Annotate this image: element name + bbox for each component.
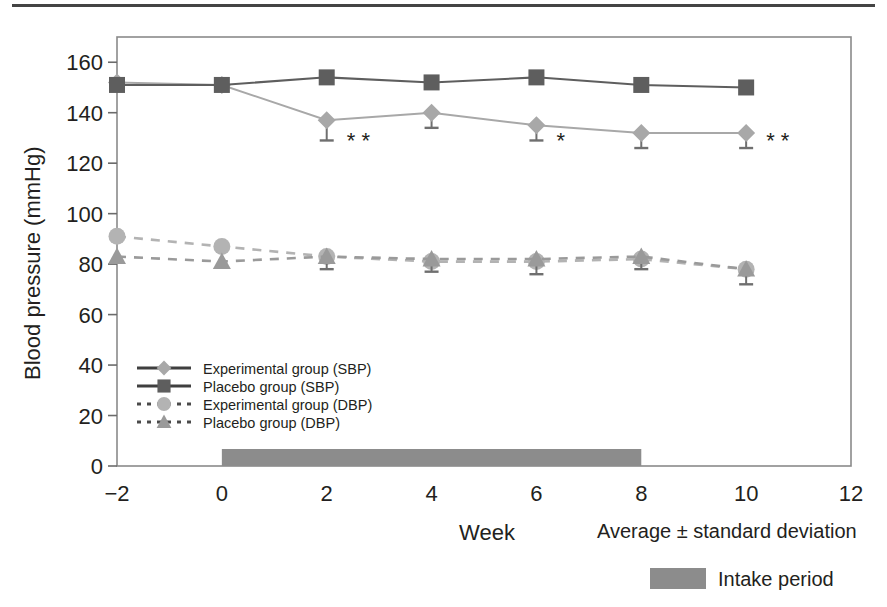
marker-diamond [318,111,336,129]
intake-period-note: Intake period [718,568,834,590]
marker-diamond [423,104,441,122]
marker-diamond [737,124,755,142]
marker-diamond [632,124,650,142]
legend-label: Experimental group (SBP) [203,361,371,377]
y-axis-title: Blood pressure (mmHg) [20,146,45,380]
average-sd-note: Average ± standard deviation [597,520,857,542]
legend-label: Placebo group (DBP) [203,415,340,431]
figure-canvas: 020406080100120140160 −2024681012 * *** … [0,0,887,607]
y-tick-label-140: 140 [66,101,103,126]
intake-period-bar [222,449,641,466]
y-tick-label-40: 40 [79,353,103,378]
x-axis-tick-labels: −2024681012 [104,481,863,506]
intake-period-swatch [650,568,706,589]
marker-circle [109,228,126,245]
legend-item-1: Experimental group (SBP) [137,361,371,377]
marker-square [319,69,335,85]
legend-label: Placebo group (SBP) [203,379,339,395]
y-axis-ticks [108,62,117,466]
marker-circle [213,238,230,255]
legend-item-4: Placebo group (DBP) [137,415,340,431]
y-tick-label-60: 60 [79,303,103,328]
x-tick-label-2: 2 [321,481,333,506]
y-tick-label-80: 80 [79,252,103,277]
x-tick-label-0: 0 [216,481,228,506]
significance-marker: * [556,128,565,153]
significance-marker: * * [766,128,790,153]
series-placebo-group-dbp [108,248,755,285]
x-tick-label-6: 6 [530,481,542,506]
significance-annotations: * *** * [347,128,790,153]
marker-triangle [213,253,231,269]
marker-square [214,77,230,93]
x-tick-label-10: 10 [734,481,758,506]
marker-square [424,74,440,90]
y-tick-label-120: 120 [66,151,103,176]
x-axis-title: Week [459,520,516,545]
marker-square [633,77,649,93]
marker-circle [157,397,171,411]
legend-item-3: Experimental group (DBP) [137,397,372,413]
marker-square [528,69,544,85]
y-axis-tick-labels: 020406080100120140160 [66,50,103,479]
x-tick-label--2: −2 [104,481,129,506]
y-tick-label-160: 160 [66,50,103,75]
intake-period-span [222,449,641,466]
marker-square [738,79,754,95]
marker-diamond [157,361,172,376]
legend-item-2: Placebo group (SBP) [137,379,339,395]
marker-square [109,77,125,93]
chart-legend: Experimental group (SBP)Placebo group (S… [137,361,372,431]
marker-diamond [527,116,545,134]
blood-pressure-line-chart: 020406080100120140160 −2024681012 * *** … [0,0,887,607]
legend-label: Experimental group (DBP) [203,397,372,413]
series-placebo-group-sbp [109,69,754,95]
x-tick-label-8: 8 [635,481,647,506]
x-tick-label-4: 4 [425,481,437,506]
data-series-group [108,69,755,284]
y-tick-label-0: 0 [91,454,103,479]
y-tick-label-20: 20 [79,404,103,429]
x-tick-label-12: 12 [839,481,863,506]
y-tick-label-100: 100 [66,202,103,227]
significance-marker: * * [347,128,371,153]
marker-square [157,379,170,392]
